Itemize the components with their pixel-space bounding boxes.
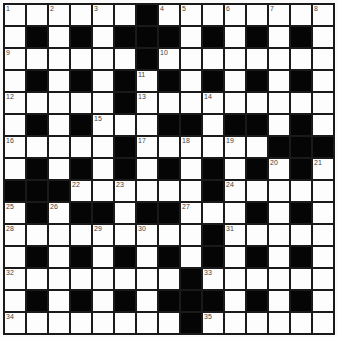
grid-cell[interactable] (247, 225, 267, 245)
grid-cell[interactable] (49, 225, 69, 245)
grid-cell[interactable]: 20 (269, 159, 289, 179)
grid-cell[interactable] (5, 27, 25, 47)
grid-cell[interactable] (291, 93, 311, 113)
grid-cell[interactable] (27, 225, 47, 245)
grid-cell[interactable] (115, 203, 135, 223)
grid-cell[interactable] (49, 313, 69, 333)
grid-cell[interactable] (71, 313, 91, 333)
grid-cell[interactable] (137, 115, 157, 135)
grid-cell[interactable] (313, 247, 333, 267)
grid-cell[interactable] (5, 291, 25, 311)
grid-cell[interactable] (247, 49, 267, 69)
grid-cell[interactable] (225, 247, 245, 267)
grid-cell[interactable] (269, 247, 289, 267)
grid-cell[interactable] (93, 49, 113, 69)
grid-cell[interactable] (93, 269, 113, 289)
grid-cell[interactable]: 24 (225, 181, 245, 201)
grid-cell[interactable] (49, 27, 69, 47)
grid-cell[interactable] (181, 181, 201, 201)
grid-cell[interactable] (247, 93, 267, 113)
grid-cell[interactable] (159, 313, 179, 333)
grid-cell[interactable]: 31 (225, 225, 245, 245)
grid-cell[interactable] (181, 159, 201, 179)
grid-cell[interactable] (203, 137, 223, 157)
grid-cell[interactable] (27, 93, 47, 113)
grid-cell[interactable] (313, 115, 333, 135)
grid-cell[interactable] (181, 71, 201, 91)
grid-cell[interactable] (269, 49, 289, 69)
grid-cell[interactable]: 23 (115, 181, 135, 201)
grid-cell[interactable]: 26 (49, 203, 69, 223)
grid-cell[interactable]: 17 (137, 137, 157, 157)
grid-cell[interactable]: 32 (5, 269, 25, 289)
grid-cell[interactable]: 8 (313, 5, 333, 25)
grid-cell[interactable] (291, 181, 311, 201)
grid-cell[interactable] (313, 27, 333, 47)
grid-cell[interactable] (115, 5, 135, 25)
grid-cell[interactable]: 1 (5, 5, 25, 25)
grid-cell[interactable] (269, 27, 289, 47)
grid-cell[interactable]: 3 (93, 5, 113, 25)
grid-cell[interactable] (313, 291, 333, 311)
grid-cell[interactable] (49, 137, 69, 157)
grid-cell[interactable] (225, 93, 245, 113)
grid-cell[interactable] (203, 115, 223, 135)
grid-cell[interactable]: 35 (203, 313, 223, 333)
grid-cell[interactable] (115, 49, 135, 69)
grid-cell[interactable] (181, 225, 201, 245)
grid-cell[interactable] (291, 269, 311, 289)
grid-cell[interactable] (27, 49, 47, 69)
grid-cell[interactable] (137, 313, 157, 333)
grid-cell[interactable]: 34 (5, 313, 25, 333)
grid-cell[interactable]: 30 (137, 225, 157, 245)
grid-cell[interactable] (159, 269, 179, 289)
grid-cell[interactable] (203, 49, 223, 69)
grid-cell[interactable] (181, 27, 201, 47)
grid-cell[interactable] (159, 181, 179, 201)
grid-cell[interactable] (93, 93, 113, 113)
grid-cell[interactable] (49, 49, 69, 69)
grid-cell[interactable] (291, 5, 311, 25)
grid-cell[interactable] (71, 137, 91, 157)
grid-cell[interactable] (247, 181, 267, 201)
grid-cell[interactable] (49, 269, 69, 289)
grid-cell[interactable] (225, 203, 245, 223)
grid-cell[interactable]: 10 (159, 49, 179, 69)
grid-cell[interactable]: 29 (93, 225, 113, 245)
grid-cell[interactable] (115, 313, 135, 333)
grid-cell[interactable] (49, 71, 69, 91)
grid-cell[interactable] (159, 93, 179, 113)
grid-cell[interactable]: 9 (5, 49, 25, 69)
grid-cell[interactable]: 6 (225, 5, 245, 25)
grid-cell[interactable]: 28 (5, 225, 25, 245)
grid-cell[interactable] (71, 269, 91, 289)
grid-cell[interactable] (93, 313, 113, 333)
grid-cell[interactable] (27, 313, 47, 333)
grid-cell[interactable] (115, 115, 135, 135)
grid-cell[interactable] (313, 269, 333, 289)
grid-cell[interactable] (181, 49, 201, 69)
grid-cell[interactable] (93, 181, 113, 201)
grid-cell[interactable]: 7 (269, 5, 289, 25)
grid-cell[interactable] (225, 313, 245, 333)
grid-cell[interactable] (269, 93, 289, 113)
grid-cell[interactable]: 4 (159, 5, 179, 25)
grid-cell[interactable] (269, 269, 289, 289)
grid-cell[interactable] (5, 115, 25, 135)
grid-cell[interactable] (225, 269, 245, 289)
grid-cell[interactable] (137, 247, 157, 267)
grid-cell[interactable] (313, 93, 333, 113)
grid-cell[interactable] (247, 5, 267, 25)
grid-cell[interactable] (269, 181, 289, 201)
grid-cell[interactable] (137, 159, 157, 179)
grid-cell[interactable] (49, 93, 69, 113)
grid-cell[interactable]: 22 (71, 181, 91, 201)
grid-cell[interactable] (49, 159, 69, 179)
grid-cell[interactable] (313, 49, 333, 69)
grid-cell[interactable] (159, 137, 179, 157)
grid-cell[interactable]: 13 (137, 93, 157, 113)
grid-cell[interactable] (93, 291, 113, 311)
grid-cell[interactable] (137, 269, 157, 289)
grid-cell[interactable] (203, 5, 223, 25)
grid-cell[interactable] (115, 225, 135, 245)
